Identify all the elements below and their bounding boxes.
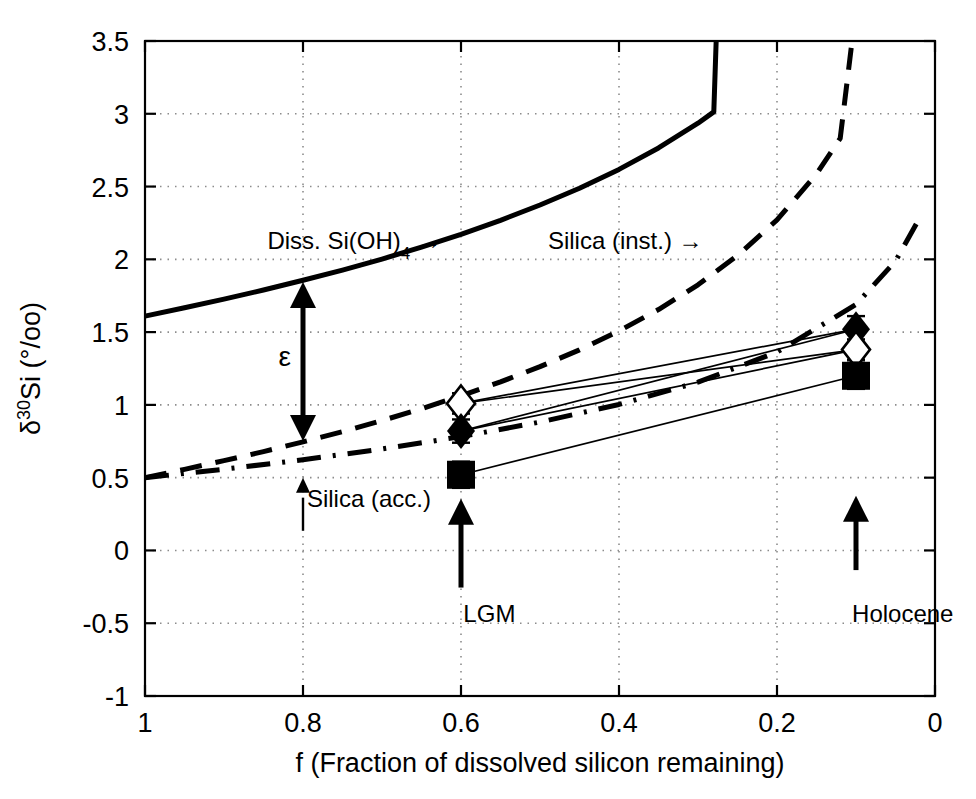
y-tick-label: 1 [114,391,129,421]
y-tick-label: 3 [114,100,129,130]
y-tick-label: -0.5 [82,609,129,639]
y-tick-label: 2 [114,245,129,275]
x-tick-label: 0.2 [758,708,796,738]
x-tick-label: 0.6 [442,708,480,738]
data-point [842,362,870,390]
x-tick-label: 0.8 [284,708,322,738]
y-tick-label: 2.5 [91,173,129,203]
y-tick-label: 0.5 [91,464,129,494]
silica-acc-label: Silica (acc.) [307,485,431,512]
y-tick-label: 0 [114,536,129,566]
silica-inst-label: Silica (inst.) → [548,227,703,254]
x-tick-label: 0.4 [600,708,638,738]
y-tick-label: 3.5 [91,27,129,57]
chart-figure: -1-0.500.511.522.533.510.80.60.40.20 f (… [0,0,976,799]
y-tick-label: 1.5 [91,318,129,348]
rayleigh-fractionation-chart: -1-0.500.511.522.533.510.80.60.40.20 f (… [0,0,976,799]
x-tick-label: 0 [927,708,942,738]
epsilon-label: ε [279,341,291,372]
x-axis-title: f (Fraction of dissolved silicon remaini… [295,748,784,778]
x-tick-label: 1 [137,708,152,738]
data-point [447,461,475,489]
marker-filled-square [842,362,870,390]
marker-filled-square [447,461,475,489]
holocene-label: Holocene [852,600,953,627]
y-tick-label: -1 [105,682,129,712]
lgm-label: LGM [463,600,515,627]
